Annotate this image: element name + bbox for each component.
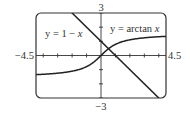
arctan-equation-label: y = arctan x — [110, 23, 160, 34]
arctan-eq-prefix: y = arctan — [110, 23, 155, 34]
plot: 3 −3 −4.5 4.5 y = 1 − x y = arctan x — [0, 0, 190, 115]
y-min-label: −3 — [95, 101, 106, 112]
y-max-label: 3 — [98, 2, 103, 13]
x-max-label: 4.5 — [168, 50, 181, 61]
line-eq-var: x — [77, 28, 83, 39]
line-equation-label: y = 1 − x — [45, 28, 83, 39]
line-eq-prefix: y = 1 − — [45, 28, 78, 39]
x-min-label: −4.5 — [15, 50, 34, 61]
arctan-eq-var: x — [154, 23, 160, 34]
